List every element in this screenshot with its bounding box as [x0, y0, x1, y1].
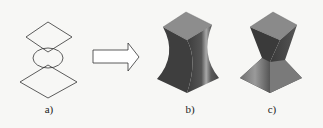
panel-label-b: b)	[175, 103, 205, 115]
right-arrow-icon	[93, 43, 139, 71]
bottom-diamond-shape	[20, 65, 77, 98]
figure: a) b) c)	[0, 0, 323, 128]
faceted-loft-solid	[240, 12, 302, 93]
panel-label-a: a)	[34, 103, 64, 115]
top-diamond-shape	[26, 22, 72, 52]
smooth-loft-solid	[157, 12, 219, 93]
profile-sketch	[20, 22, 77, 98]
panel-label-c: c)	[257, 103, 287, 115]
